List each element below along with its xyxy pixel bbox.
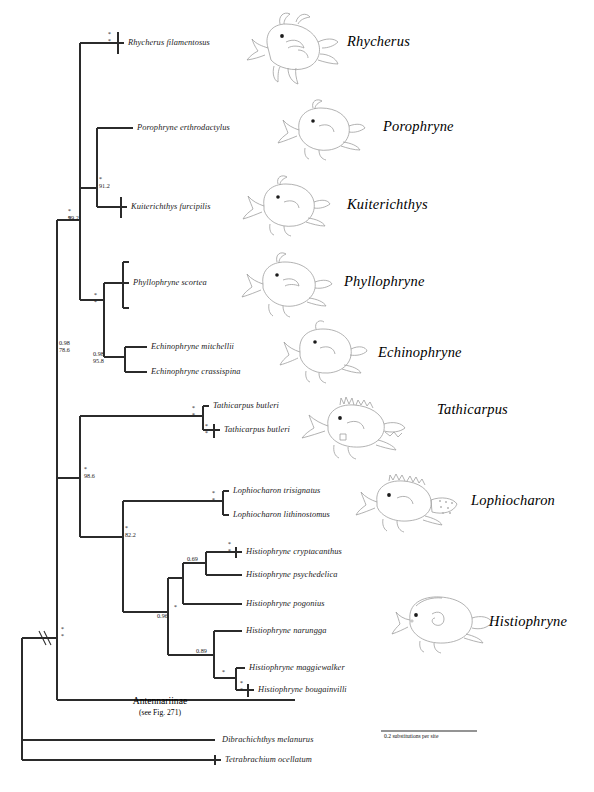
- tip-label-porophryne-erthrodactylus: Porophryne erthrodactylus: [137, 123, 230, 132]
- tip-label-histiophryne-pogonius: Histiophryne pogonius: [246, 599, 325, 608]
- support-bs: 91.2: [99, 183, 110, 190]
- tip-label-lophiocharon-trisignatus: Lophiocharon trisignatus: [233, 486, 320, 495]
- support-bs: *: [205, 430, 208, 437]
- clade-label-antennariinae: Antennariinae: [100, 695, 220, 706]
- support-bs: *: [192, 412, 195, 419]
- node-support-maggie-bougain: *: [222, 669, 225, 676]
- genus-label-kuiterichthys: Kuiterichthys: [347, 196, 428, 213]
- support-bs: 78.6: [59, 347, 70, 354]
- genus-label-lophiocharon: Lophiocharon: [471, 492, 555, 509]
- fish-illustration-porophryne: [275, 98, 367, 160]
- node-support-tathicarpus-outer: * *: [192, 405, 195, 418]
- support-bs: *: [61, 633, 64, 640]
- genus-label-rhycherus: Rhycherus: [347, 33, 410, 50]
- tip-label-tetrabrachium-ocellatum: Tetrabrachium ocellatum: [225, 755, 312, 764]
- tip-label-histiophryne-maggiewalker: Histiophryne maggiewalker: [249, 663, 345, 672]
- node-support-histio-lower: 0.89: [196, 648, 207, 655]
- node-support-crypt-pair: * *: [228, 541, 231, 554]
- fish-illustration-histiophryne: [390, 588, 496, 654]
- tip-label-tathicarpus-butleri-2: Tathicarpus butleri: [224, 425, 290, 434]
- fish-illustration-kuiterichthys: [240, 174, 332, 236]
- node-support-histio-upper: 0.96: [157, 613, 168, 620]
- node-support-upper-clade-bs: 99.2: [68, 215, 79, 222]
- tip-label-tathicarpus-butleri-1: Tathicarpus butleri: [213, 401, 279, 410]
- genus-label-echinophryne: Echinophryne: [378, 344, 462, 361]
- node-support-tathicarpus-inner: * *: [205, 423, 208, 436]
- node-support-phyllo-echino: * *: [94, 292, 97, 305]
- node-support-lophio-histio: * 82.2: [125, 525, 136, 538]
- tip-label-echinophryne-crassispina: Echinophryne crassispina: [151, 367, 241, 376]
- fish-illustration-phyllophryne: [237, 250, 335, 318]
- fish-illustration-echinophryne: [276, 318, 368, 384]
- fish-illustration-rhycherus: [238, 8, 343, 86]
- node-support-porophryne-kuiterichthys: * 91.2: [99, 176, 110, 189]
- fish-illustration-lophiocharon: [355, 470, 465, 532]
- tip-label-histiophryne-psychedelica: Histiophryne psychedelica: [246, 570, 338, 579]
- support-pp: *: [174, 604, 177, 611]
- node-support-lophiocharon: * *: [212, 490, 215, 503]
- tip-label-lophiocharon-lithinostomus: Lophiocharon lithinostomus: [233, 510, 330, 519]
- node-support-rhycherus-tip: * *: [108, 31, 111, 44]
- node-support-root-ingroup: * *: [61, 626, 64, 639]
- node-support-crypt-psych: 0.69: [187, 556, 198, 563]
- node-support-echinophryne: 0.98 95.8: [93, 351, 104, 364]
- support-bs: 98.6: [84, 473, 95, 480]
- tip-label-dibrachichthys-melanurus: Dibrachichthys melanurus: [222, 735, 314, 744]
- support-pp: 0.96: [157, 613, 168, 620]
- node-support-bougain-pair: * *: [240, 680, 243, 693]
- support-bs: 99.2: [68, 215, 79, 222]
- support-bs: 82.2: [125, 532, 136, 539]
- genus-label-histiophryne: Histiophryne: [489, 613, 567, 630]
- node-support-crypt-psych-pogon: *: [174, 604, 177, 611]
- tip-label-echinophryne-mitchellii: Echinophryne mitchellii: [151, 342, 234, 351]
- fish-illustration-tathicarpus: [300, 392, 410, 460]
- support-bs: 95.8: [93, 358, 104, 365]
- figure-canvas: Rhycherus filamentosus Porophryne erthro…: [0, 0, 594, 792]
- support-pp: *: [222, 669, 225, 676]
- tip-label-histiophryne-bougainvilli: Histiophryne bougainvilli: [258, 685, 347, 694]
- tip-label-kuiterichthys-furcipilis: Kuiterichthys furcipilis: [131, 202, 211, 211]
- tip-label-histiophryne-cryptacanthus: Histiophryne cryptacanthus: [246, 547, 342, 556]
- tip-label-phyllophryne-scortea: Phyllophryne scortea: [133, 278, 207, 287]
- tip-label-histiophryne-narungga: Histiophryne narungga: [246, 626, 327, 635]
- support-pp: 0.89: [196, 648, 207, 655]
- support-bs: *: [240, 687, 243, 694]
- support-bs: *: [228, 548, 231, 555]
- node-support-tathi-lophio-histio: * 98.6: [84, 466, 95, 479]
- genus-label-phyllophryne: Phyllophryne: [344, 273, 425, 290]
- genus-label-tathicarpus: Tathicarpus: [437, 401, 508, 418]
- clade-label-antennariinae-note: (see Fig. 271): [100, 708, 220, 717]
- node-support-histiophryninae: 0.98 78.6: [59, 340, 70, 353]
- support-bs: *: [108, 38, 111, 45]
- scale-bar-label: 0.2 substitutions per site: [384, 733, 438, 739]
- tip-label-rhycherus-filamentosus: Rhycherus filamentosus: [128, 38, 210, 47]
- genus-label-porophryne: Porophryne: [383, 118, 454, 135]
- support-bs: *: [212, 497, 215, 504]
- support-pp: 0.69: [187, 556, 198, 563]
- support-bs: *: [94, 299, 97, 306]
